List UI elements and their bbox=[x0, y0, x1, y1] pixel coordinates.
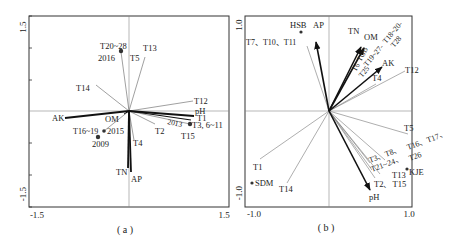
label-t7-t10-t11: T7、T10、T11 bbox=[246, 38, 296, 47]
vector-t21-24 bbox=[329, 111, 372, 170]
vector-t14 bbox=[287, 111, 329, 183]
panel-b-caption: ( b ) bbox=[318, 222, 335, 234]
panel-b-labels: HSB AP T7、T10、T11 TN OM T18~20- T28 T6 T… bbox=[246, 19, 448, 202]
label-om: OM bbox=[105, 114, 119, 124]
vector-t5 bbox=[329, 111, 408, 134]
panel-b-y-min-label: -1.0 bbox=[234, 185, 244, 200]
label-t20-28: T20~28 bbox=[100, 41, 127, 51]
label-t12: T12 bbox=[194, 96, 208, 106]
vector-ph bbox=[329, 111, 370, 190]
label-t13: T13 bbox=[143, 43, 157, 53]
panel-a-x-min-label: -1.5 bbox=[30, 210, 45, 220]
label-t2: T2 bbox=[155, 126, 164, 136]
label-kje: KJE bbox=[409, 167, 424, 177]
panel-b: 1.0 -1.0 -1.0 1.0 ( b ) bbox=[234, 16, 448, 234]
label-t5: T5 bbox=[404, 123, 413, 133]
vector-t14 bbox=[96, 85, 129, 111]
label-tn: TN bbox=[348, 26, 359, 36]
vector-t1 bbox=[260, 111, 329, 159]
label-ak: AK bbox=[382, 58, 395, 68]
panel-b-x-max-label: 1.0 bbox=[403, 209, 415, 219]
label-ak: AK bbox=[52, 113, 65, 123]
point-sdm bbox=[250, 181, 253, 184]
label-t16-19: T16~19 bbox=[73, 127, 98, 136]
panel-a-caption: ( a ) bbox=[117, 224, 133, 236]
point-2015 bbox=[102, 129, 106, 133]
label-t1: T1 bbox=[253, 162, 262, 172]
label-t14: T14 bbox=[76, 83, 90, 93]
panel-b-y-max-label: 1.0 bbox=[234, 19, 244, 31]
panel-b-x-min-label: -1.0 bbox=[247, 209, 262, 219]
label-ph: pH bbox=[369, 192, 379, 202]
label-2015: 2015 bbox=[107, 126, 124, 136]
label-sdm: SDM bbox=[255, 178, 274, 188]
label-ap: AP bbox=[313, 20, 324, 30]
label-2013: 2013 bbox=[167, 117, 184, 129]
panel-a-y-min-label: -1.5 bbox=[18, 186, 28, 201]
panel-a-y-max-label: 1.5 bbox=[18, 21, 28, 33]
vector-t12 bbox=[129, 101, 193, 111]
label-2009: 2009 bbox=[92, 139, 109, 149]
label-t15: T15 bbox=[181, 131, 195, 141]
point-hsb bbox=[299, 30, 302, 33]
panel-a: 1.5 -1.5 -1.5 1.5 ( a ) bbox=[18, 16, 230, 236]
label-ap: AP bbox=[131, 174, 142, 184]
label-t4: T4 bbox=[133, 138, 143, 148]
panel-a-x-max-label: 1.5 bbox=[218, 210, 230, 220]
vector-t2-t15 bbox=[329, 111, 375, 178]
vector-t13 bbox=[129, 57, 145, 111]
vector-t20-28 bbox=[121, 52, 129, 111]
label-t26: T26 bbox=[408, 150, 423, 163]
label-t4: T4 bbox=[372, 73, 382, 83]
label-om: OM bbox=[364, 32, 378, 42]
label-2016: 2016 bbox=[98, 53, 115, 63]
label-t12: T12 bbox=[405, 65, 419, 75]
label-hsb: HSB bbox=[290, 20, 307, 30]
label-t2-t15: T2、T15 bbox=[374, 179, 406, 189]
label-t5: T5 bbox=[130, 53, 139, 63]
label-t3-6-11: T3, 6~11 bbox=[192, 120, 223, 130]
figure: 1.5 -1.5 -1.5 1.5 ( a ) bbox=[0, 0, 463, 242]
vector-ak bbox=[65, 111, 129, 118]
label-t14: T14 bbox=[279, 184, 293, 194]
vector-ap bbox=[316, 42, 329, 111]
label-tn: TN bbox=[116, 167, 127, 177]
